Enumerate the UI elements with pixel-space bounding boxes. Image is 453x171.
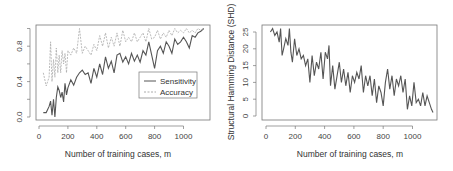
right-x-tick-label: 400 — [318, 132, 332, 141]
left-x-tick-label: 400 — [90, 132, 104, 141]
legend-sensitivity-label: Sensitivity — [160, 77, 196, 86]
right-x-tick-label: 600 — [347, 132, 361, 141]
left-y-axis: 0.00.40.8 — [15, 29, 30, 123]
right-chart: 0510152025 02004006008001000 Number of t… — [226, 4, 437, 159]
right-plot-lines — [270, 29, 433, 113]
left-x-tick-label: 0 — [37, 132, 42, 141]
left-x-tick-label: 800 — [148, 132, 162, 141]
right-x-tick-label: 200 — [289, 132, 303, 141]
right-y-tick-label: 25 — [241, 27, 250, 36]
left-y-tick-label: 0.8 — [15, 40, 24, 52]
left-y-tick-label: 0.0 — [15, 111, 24, 123]
left-x-tick-label: 200 — [61, 132, 75, 141]
right-y-tick-label: 20 — [241, 44, 250, 53]
legend-accuracy-label: Accuracy — [160, 88, 193, 97]
legend: Sensitivity Accuracy — [139, 72, 197, 98]
right-y-tick-label: 0 — [241, 113, 250, 118]
right-y-tick-label: 10 — [241, 77, 250, 86]
left-x-tick-label: 1000 — [175, 132, 193, 141]
right-x-tick-label: 0 — [264, 132, 269, 141]
left-x-axis: 02004006008001000 — [37, 126, 193, 141]
shd-line — [270, 29, 433, 113]
right-x-axis: 02004006008001000 — [264, 126, 422, 141]
right-x-tick-label: 1000 — [404, 132, 422, 141]
left-y-tick-label: 0.4 — [15, 75, 24, 87]
right-y-axis-label: Structural Hamming Distance (SHD) — [226, 4, 236, 141]
right-x-axis-label: Number of training cases, m — [297, 149, 403, 159]
right-y-tick-label: 15 — [241, 61, 250, 70]
left-chart: 0.00.40.8 02004006008001000 Number of tr… — [15, 25, 210, 159]
left-x-tick-label: 600 — [119, 132, 133, 141]
right-x-tick-label: 800 — [377, 132, 391, 141]
right-y-tick-label: 5 — [241, 96, 250, 101]
left-x-axis-label: Number of training cases, m — [65, 149, 171, 159]
right-y-axis: 0510152025 — [241, 27, 256, 118]
